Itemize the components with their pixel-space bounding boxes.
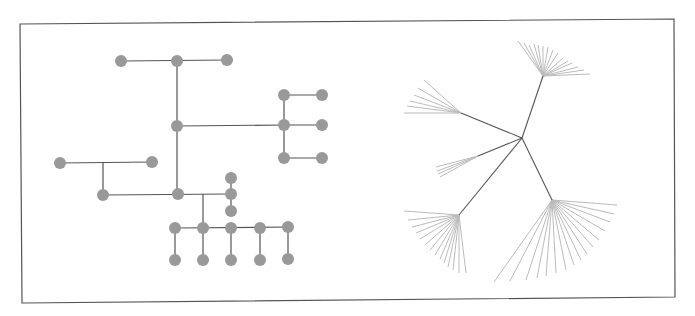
tree-node [254,254,266,266]
radial-branch-edge [461,113,522,138]
tree-node [171,120,183,132]
tree-node [171,55,183,67]
tree-node [54,157,66,169]
radial-leaf-edge [418,88,461,113]
radial-leaf-edge [424,80,461,113]
tree-node [225,188,237,200]
radial-leaf-edge [510,200,552,281]
tree-node [254,222,266,234]
right-tree-leaf-edges [404,41,617,282]
tree-node [282,253,294,265]
tree-node [278,152,290,164]
radial-branch-edge [522,76,543,138]
radial-leaf-edge [546,200,552,276]
left-tree-nodes [54,54,328,266]
radial-leaf-edge [494,200,552,282]
radial-leaf-edge [440,156,478,177]
tree-node [97,189,109,201]
tree-node [169,222,181,234]
tree-node [225,222,237,234]
radial-leaf-edge [404,211,459,215]
diagram-canvas [0,0,695,316]
tree-node [146,156,158,168]
tree-node [316,119,328,131]
tree-node [197,254,209,266]
tree-node [197,222,209,234]
tree-node [225,172,237,184]
tree-node [169,254,181,266]
tree-node [221,54,233,66]
tree-node [316,152,328,164]
tree-node [225,254,237,266]
tree-node [225,205,237,217]
tree-edge [60,162,152,163]
radial-branch-edge [478,138,522,156]
tree-edge [103,194,231,195]
tree-node [278,89,290,101]
tree-node [278,119,290,131]
tree-edge [177,125,284,126]
radial-leaf-edge [430,215,459,250]
tree-node [115,55,127,67]
radial-leaf-edge [459,215,466,273]
radial-leaf-edge [518,41,543,76]
radial-leaf-edge [552,200,593,247]
right-tree-branch-edges [459,76,552,215]
tree-layouts-figure [0,0,695,316]
radial-branch-edge [522,138,552,200]
tree-node [282,221,294,233]
tree-node [172,188,184,200]
tree-node [316,89,328,101]
radial-branch-edge [459,138,522,215]
